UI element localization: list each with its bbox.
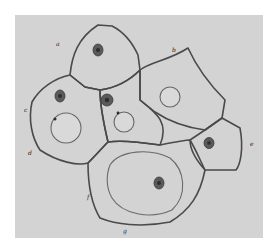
granule <box>54 118 57 121</box>
label-g: g <box>123 227 127 235</box>
label-e: e <box>250 140 254 147</box>
cell-wall-center <box>100 70 163 145</box>
vacuole <box>160 87 180 107</box>
granule <box>117 112 120 115</box>
label-b: b <box>172 46 176 53</box>
cell-wall-bottom <box>88 140 205 225</box>
vacuole <box>51 113 81 143</box>
cell-wall-right <box>190 118 242 170</box>
cell-illustration: a b c d e f g <box>0 0 279 249</box>
vacuole <box>114 112 134 132</box>
nucleolus <box>207 141 211 145</box>
cell-wall-top-right <box>140 48 225 130</box>
label-d: d <box>28 149 32 156</box>
nucleolus <box>58 94 62 98</box>
label-a: a <box>56 40 60 47</box>
inner-membrane <box>107 152 182 215</box>
label-c: c <box>24 106 28 113</box>
cell-wall-top <box>70 25 140 90</box>
nucleolus <box>105 98 109 102</box>
nucleolus <box>157 181 161 185</box>
nucleolus <box>96 48 100 52</box>
